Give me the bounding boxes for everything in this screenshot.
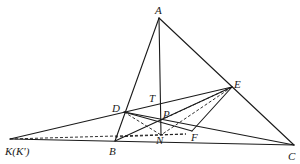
label-F: F: [190, 131, 198, 143]
segment-EF: [192, 87, 232, 131]
segment-DC: [124, 112, 294, 145]
segment-KC: [10, 139, 294, 145]
segment-AN: [159, 18, 161, 135]
label-B: B: [109, 145, 116, 157]
segment-KE: [10, 87, 232, 139]
label-T: T: [149, 92, 156, 104]
label-C: C: [288, 150, 296, 162]
label-K: K(K'): [4, 145, 30, 158]
dashed-EN: [161, 87, 232, 135]
label-E: E: [233, 78, 241, 90]
label-D: D: [111, 102, 120, 114]
segment-AC: [159, 18, 294, 145]
label-P: P: [162, 108, 170, 120]
geometry-diagram: A E T D P F N B K(K') C: [0, 0, 300, 164]
label-A: A: [154, 4, 162, 16]
label-N: N: [155, 134, 164, 146]
segment-DF: [124, 112, 192, 131]
segment-AB: [115, 18, 159, 141]
